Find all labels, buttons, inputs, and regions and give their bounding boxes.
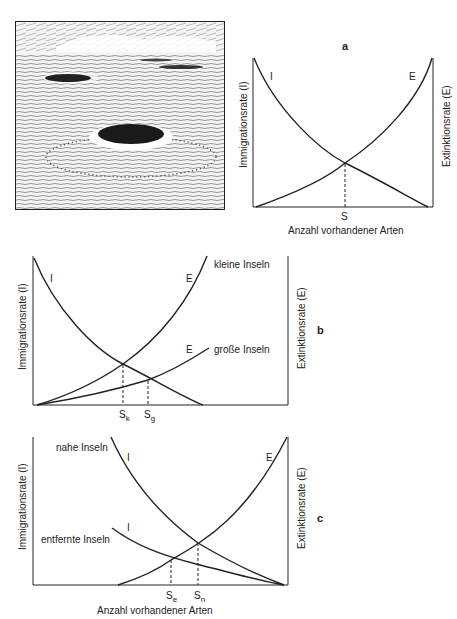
eq-main-sn: S [194,590,201,601]
equilibrium-label-sn: Sn [194,590,205,601]
eq-main-se: S [166,590,173,601]
chart-c-plot [0,0,457,619]
series-label-far-c: entfernte Inseln [41,534,110,545]
series-label-near-c: nahe Inseln [56,442,108,453]
curve-label-I-near-c: I [127,452,130,463]
eq-sub-sn: n [201,595,205,604]
equilibrium-label-se: Se [166,590,177,601]
curve-label-E-c: E [266,452,273,463]
eq-sub-se: e [173,595,177,604]
x-label-c: Anzahl vorhandener Arten [97,605,213,616]
curve-label-I-far-c: I [127,522,130,533]
